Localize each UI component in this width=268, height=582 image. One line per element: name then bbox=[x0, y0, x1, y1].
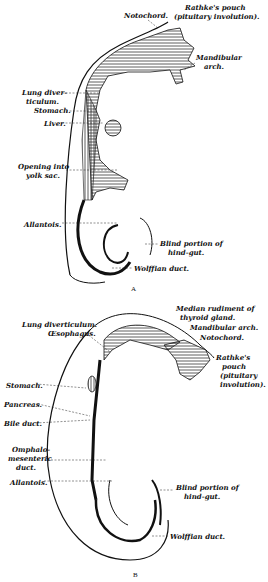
label-b-pancreas: Pancreas. bbox=[4, 401, 42, 409]
label-b-blind-line1: Blind portion of bbox=[176, 484, 239, 492]
label-a-rathke-line2: (pituitary involution). bbox=[174, 13, 259, 21]
label-a-rathke-line1: Rathke's pouch bbox=[185, 4, 246, 12]
label-b-rathke-line3: (pituitary bbox=[220, 372, 257, 380]
label-b-median-line2: thyroid gland. bbox=[180, 314, 235, 322]
label-a-liver: Liver. bbox=[44, 120, 66, 128]
label-b-stomach: Stomach. bbox=[6, 382, 43, 390]
label-b-rathke-line1: Rathke's bbox=[216, 354, 250, 362]
label-b-oesophagus: Œsophagus. bbox=[48, 330, 96, 338]
label-b-mandibular: Mandibular arch. bbox=[190, 324, 258, 332]
caption-a: A bbox=[131, 285, 136, 293]
label-b-rathke-line2: pouch bbox=[222, 363, 246, 371]
label-a-allantois: Allantois. bbox=[24, 221, 61, 229]
label-a-lung-line2: ticulum. bbox=[26, 98, 59, 106]
label-a-wolffian: Wolffian duct. bbox=[134, 265, 189, 273]
label-a-blind-line2: hind-gut. bbox=[168, 249, 204, 257]
label-b-omphalo-line2: mesenteric bbox=[8, 455, 52, 463]
label-b-median-line1: Median rudiment of bbox=[176, 305, 254, 313]
label-b-allantois: Allantois. bbox=[10, 479, 47, 487]
label-a-stomach: Stomach. bbox=[34, 107, 71, 115]
label-b-omphalo-line3: duct. bbox=[16, 464, 36, 472]
label-b-notochord: Notochord. bbox=[200, 334, 244, 342]
label-b-bile-duct: Bile duct. bbox=[4, 420, 42, 428]
label-a-notochord: Notochord. bbox=[124, 12, 168, 20]
label-b-wolffian: Wolffian duct. bbox=[170, 533, 225, 541]
label-a-opening-line1: Opening into bbox=[18, 163, 69, 171]
label-a-mandibular-line2: arch. bbox=[204, 63, 224, 71]
label-b-omphalo-line1: Omphalo- bbox=[12, 446, 50, 454]
caption-b: B bbox=[133, 571, 138, 579]
label-b-rathke-line4: involution). bbox=[220, 381, 266, 389]
label-a-mandibular-line1: Mandibular bbox=[196, 54, 242, 62]
label-a-lung-line1: Lung diver- bbox=[22, 89, 67, 97]
label-a-blind-line1: Blind portion of bbox=[160, 240, 223, 248]
label-b-blind-line2: hind-gut. bbox=[184, 493, 220, 501]
label-b-lung: Lung diverticulum. bbox=[22, 321, 97, 329]
label-a-opening-line2: yolk sac. bbox=[26, 172, 60, 180]
